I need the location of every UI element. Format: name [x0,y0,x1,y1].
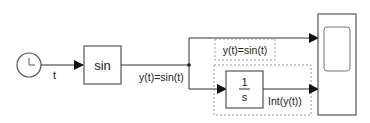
sin-block-label: sin [94,58,111,73]
scope-icon [324,27,350,71]
scope-block[interactable] [318,14,356,115]
sin-block[interactable]: sin [84,46,121,84]
integrator-denominator: s [242,91,248,103]
integrator-block[interactable]: 1 s [226,71,263,108]
signal-label-integrator-out: Int(y(t)) [268,95,302,107]
annotation-label-top: y(t)=sin(t) [223,44,268,56]
integrator-numerator: 1 [241,76,247,88]
signal-label-t: t [53,69,56,81]
signal-label-sin-out: y(t)=sin(t) [139,71,184,83]
simulink-canvas: t sin y(t)=sin(t) y(t)=sin(t) 1 s Int(y(… [0,0,370,123]
clock-block[interactable] [17,53,41,77]
